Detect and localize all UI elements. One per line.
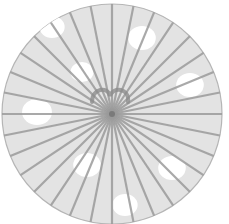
parasol-hub	[109, 111, 115, 117]
parasol-graphic	[0, 0, 229, 224]
polka-dot	[128, 26, 156, 50]
polka-dot	[39, 16, 64, 38]
polka-dot	[22, 99, 52, 125]
polka-dot	[112, 194, 137, 216]
polka-dot	[71, 62, 94, 82]
parasol-illustration	[0, 0, 229, 224]
